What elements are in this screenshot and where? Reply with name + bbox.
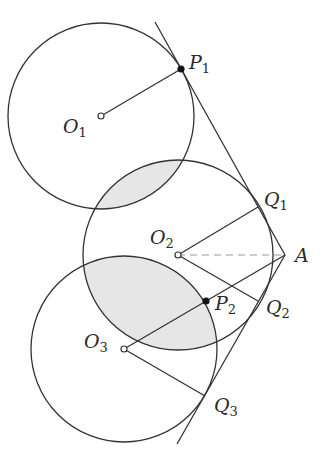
center-o2	[175, 252, 181, 258]
point-p2	[202, 297, 209, 304]
center-o3	[121, 346, 127, 352]
point-p1	[177, 65, 184, 72]
label-q1: Q1	[264, 190, 288, 212]
diagram-canvas: P1 O1 Q1 O2 A P2 Q2 O3 Q3	[0, 0, 327, 453]
tangent-line-upper	[155, 22, 285, 255]
center-o1	[98, 113, 104, 119]
label-o3: O3	[84, 332, 108, 354]
label-a: A	[295, 246, 309, 265]
radius-o1-p1	[101, 69, 181, 116]
label-p1: P1	[189, 53, 210, 75]
radius-o3-q3	[124, 349, 205, 396]
label-p2: P2	[215, 294, 236, 316]
label-o1: O1	[63, 117, 87, 139]
label-q3: Q3	[214, 396, 238, 418]
label-o2: O2	[150, 228, 174, 250]
radius-o2-q1	[178, 207, 258, 255]
label-q2: Q2	[266, 298, 290, 320]
